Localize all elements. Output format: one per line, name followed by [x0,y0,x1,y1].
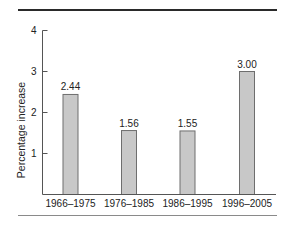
x-category-label: 1966–1975 [45,198,95,209]
y-tick-label: 1 [31,148,37,159]
y-axis: 1234 [31,25,48,195]
bar-chart: 1234 2.441.561.553.00 1966–19751976–1985… [0,0,292,226]
x-axis: 1966–19751976–19851986–19951996–2005 [43,195,277,210]
y-tick-label: 4 [31,25,37,36]
bar [122,131,137,195]
bars: 2.441.561.553.00 [61,59,257,195]
x-category-label: 1996–2005 [222,198,272,209]
y-axis-title: Percentage increase [15,82,27,178]
y-tick-label: 2 [31,107,37,118]
bar-value-label: 1.55 [178,118,198,129]
bar [63,94,78,194]
bar-value-label: 3.00 [237,59,257,70]
x-category-label: 1976–1985 [104,198,154,209]
bar [180,131,195,195]
bar-value-label: 1.56 [119,118,139,129]
y-tick-label: 3 [31,66,37,77]
x-category-label: 1986–1995 [162,198,212,209]
bottom-rule [18,215,277,216]
bar [240,72,255,195]
bar-value-label: 2.44 [61,81,81,92]
